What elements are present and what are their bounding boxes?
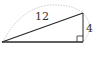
triangle-diagram: 12 4 <box>0 0 100 63</box>
right-angle-marker <box>77 36 83 42</box>
hypotenuse-label: 12 <box>35 10 49 23</box>
vertical-leg-label: 4 <box>86 22 93 35</box>
